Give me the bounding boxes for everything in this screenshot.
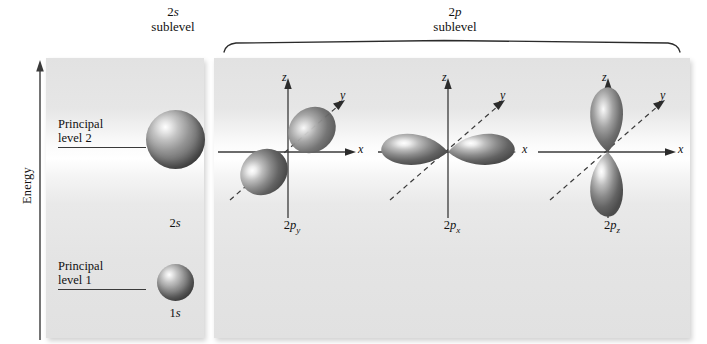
axis-label-y-py: y <box>340 88 345 103</box>
axis-label-x-py: x <box>358 142 363 157</box>
orbital-1s-caption: 1s <box>140 306 210 321</box>
axis-label-y-pz: y <box>660 88 665 103</box>
orbital-1s-sphere <box>157 264 194 301</box>
orbital-2s-caption: 2s <box>140 216 210 231</box>
heading-2p-sublevel: 2p sublevel <box>400 4 510 34</box>
energy-axis-label: Energy <box>20 146 35 226</box>
axis-label-z-pz: z <box>602 70 607 85</box>
heading-2s-sublevel: 2s sublevel <box>118 4 228 34</box>
principal-level-2-line <box>58 147 146 148</box>
heading-2p-word: sublevel <box>433 19 476 34</box>
principal-level-1-line <box>58 289 146 290</box>
principal-level-1-marker: Principal level 1 <box>58 259 146 290</box>
orbital-2px-caption: 2px <box>372 218 532 235</box>
orbital-2pz-caption: 2pz <box>532 218 692 235</box>
principal-level-2-label: Principal level 2 <box>58 117 146 145</box>
orbital-2pz-diagram: y z x <box>532 72 692 232</box>
orbital-2s-sphere <box>146 110 205 169</box>
heading-2s-symbol: 2s <box>167 4 179 19</box>
axis-label-z-px: z <box>442 70 447 85</box>
orbital-2px-diagram: y z x <box>372 72 532 232</box>
heading-2p-symbol: 2p <box>449 4 462 19</box>
principal-level-1-label: Principal level 1 <box>58 259 146 287</box>
orbital-energy-diagram: Energy 2s sublevel 2p sublevel Principal… <box>0 0 707 344</box>
orbital-2py-diagram: y z x <box>212 72 372 232</box>
principal-level-2-marker: Principal level 2 <box>58 117 146 148</box>
axis-label-x-pz: x <box>678 142 683 157</box>
orbital-2py-caption: 2py <box>212 218 372 235</box>
axis-label-y-px: y <box>500 88 505 103</box>
heading-2s-word: sublevel <box>151 19 194 34</box>
axis-label-z-py: z <box>282 70 287 85</box>
axis-label-x-px: x <box>522 142 527 157</box>
